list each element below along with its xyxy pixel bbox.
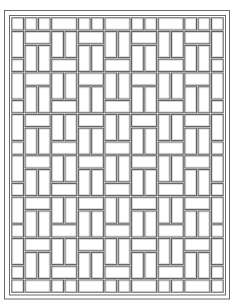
tile-vertical [105, 114, 117, 140]
tile-vertical [185, 128, 197, 154]
tile-vertical [118, 32, 130, 58]
tile-horizontal [105, 142, 130, 154]
tile-horizontal [52, 18, 77, 30]
basket-weave-pattern [0, 0, 233, 301]
tile-vertical [52, 239, 64, 265]
tile-horizontal [25, 32, 50, 44]
tile-vertical [172, 239, 184, 265]
tile-square [172, 280, 184, 292]
tile-horizontal [52, 142, 77, 154]
tile-vertical [118, 156, 130, 182]
tile-vertical [172, 114, 184, 140]
tile-horizontal [158, 142, 183, 154]
tile-horizontal [132, 156, 157, 168]
tile-horizontal [25, 280, 50, 292]
tile-vertical [118, 197, 130, 223]
tile-horizontal [185, 73, 210, 85]
tile-vertical [185, 211, 197, 237]
tile-square [211, 18, 223, 30]
tile-vertical [78, 45, 90, 71]
tile-horizontal [78, 197, 103, 209]
tile-horizontal [78, 239, 103, 251]
tile-vertical [25, 45, 37, 71]
tile-square [12, 142, 24, 154]
tile-vertical [65, 114, 77, 140]
tile-vertical [52, 114, 64, 140]
tile-horizontal [132, 239, 157, 251]
tile-vertical [145, 87, 157, 113]
tile-horizontal [158, 266, 183, 278]
tile-pieces [12, 18, 223, 292]
tile-vertical [132, 87, 144, 113]
tile-square [12, 18, 24, 30]
tile-vertical [185, 45, 197, 71]
tile-horizontal [132, 114, 157, 126]
tile-horizontal [132, 280, 157, 292]
tile-vertical [65, 197, 77, 223]
tile-square [198, 18, 210, 30]
tile-square [78, 18, 90, 30]
tile-vertical [118, 239, 130, 265]
tile-vertical [158, 32, 170, 58]
tile-vertical [211, 114, 223, 140]
tile-vertical [12, 156, 24, 182]
tile-vertical [211, 156, 223, 182]
tile-square [38, 18, 50, 30]
tile-vertical [198, 128, 210, 154]
tile-horizontal [78, 73, 103, 85]
tile-horizontal [105, 266, 130, 278]
tile-square [211, 266, 223, 278]
tile-horizontal [158, 101, 183, 113]
tile-horizontal [105, 18, 130, 30]
tile-vertical [198, 87, 210, 113]
tile-vertical [92, 211, 104, 237]
tile-horizontal [25, 239, 50, 251]
tile-horizontal [78, 280, 103, 292]
tile-horizontal [132, 197, 157, 209]
tile-vertical [52, 156, 64, 182]
tile-vertical [132, 211, 144, 237]
tile-vertical [172, 32, 184, 58]
tile-vertical [198, 170, 210, 196]
tile-vertical [38, 170, 50, 196]
tile-square [12, 266, 24, 278]
tile-square [92, 18, 104, 30]
tile-vertical [78, 128, 90, 154]
tile-vertical [145, 128, 157, 154]
tile-vertical [78, 211, 90, 237]
tile-square [211, 183, 223, 195]
tile-vertical [12, 73, 24, 99]
tile-horizontal [158, 183, 183, 195]
tile-vertical [52, 197, 64, 223]
tile-square [132, 18, 144, 30]
tile-vertical [12, 197, 24, 223]
tile-square [158, 280, 170, 292]
tile-square [118, 280, 130, 292]
tile-vertical [105, 239, 117, 265]
tile-vertical [158, 197, 170, 223]
tile-vertical [78, 252, 90, 278]
tile-vertical [12, 239, 24, 265]
tile-horizontal [132, 32, 157, 44]
tile-vertical [185, 252, 197, 278]
tile-vertical [105, 73, 117, 99]
tile-vertical [132, 45, 144, 71]
tile-square [105, 280, 117, 292]
tile-horizontal [158, 59, 183, 71]
tile-square [185, 18, 197, 30]
tile-vertical [38, 211, 50, 237]
tile-vertical [25, 128, 37, 154]
tile-vertical [198, 252, 210, 278]
tile-horizontal [185, 114, 210, 126]
tile-vertical [92, 170, 104, 196]
tile-square [211, 280, 223, 292]
tile-vertical [12, 32, 24, 58]
tile-horizontal [105, 59, 130, 71]
tile-vertical [132, 170, 144, 196]
tile-horizontal [132, 73, 157, 85]
tile-vertical [118, 73, 130, 99]
tile-horizontal [52, 59, 77, 71]
tile-square [12, 225, 24, 237]
tile-horizontal [52, 225, 77, 237]
tile-vertical [25, 252, 37, 278]
